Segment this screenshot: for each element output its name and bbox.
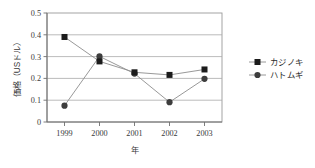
series-markers-kajinoki <box>62 34 208 78</box>
data-point <box>166 99 172 105</box>
data-point <box>167 72 173 78</box>
chart-figure: 0.5 0.4 0.3 0.2 0.1 0 1999 2000 2001 200… <box>0 0 315 168</box>
data-point <box>132 69 138 75</box>
y-tick-labels: 0.5 0.4 0.3 0.2 0.1 0 <box>31 9 41 127</box>
y-tick-label: 0.4 <box>31 31 41 40</box>
legend-label: カジノキ <box>270 57 303 67</box>
series-line-hatomugi <box>65 56 205 105</box>
line-chart: 0.5 0.4 0.3 0.2 0.1 0 1999 2000 2001 200… <box>0 0 315 168</box>
x-tick-marks <box>65 122 205 126</box>
data-point <box>97 58 103 64</box>
square-marker-icon <box>255 59 261 65</box>
y-tick-label: 0.3 <box>31 53 41 62</box>
data-point <box>61 103 67 109</box>
x-axis-title: 年 <box>131 145 139 155</box>
data-point <box>202 66 208 72</box>
legend-entry-kajinoki[interactable]: カジノキ <box>249 57 303 67</box>
plot-area-frame <box>47 13 222 122</box>
x-tick-label: 2001 <box>126 129 142 138</box>
y-tick-label: 0.1 <box>31 96 41 105</box>
y-axis-title: 価格（USドル） <box>12 38 22 97</box>
y-tick-marks <box>44 13 48 122</box>
x-tick-label: 2000 <box>91 129 107 138</box>
x-tick-labels: 1999 2000 2001 2002 2003 <box>56 129 212 138</box>
series-line-kajinoki <box>65 37 205 75</box>
x-tick-label: 2003 <box>196 129 212 138</box>
chart-legend: カジノキ ハトムギ <box>249 57 303 80</box>
legend-label: ハトムギ <box>270 70 303 80</box>
y-tick-label: 0.5 <box>31 9 41 18</box>
y-tick-label: 0 <box>37 118 41 127</box>
x-tick-label: 2002 <box>161 129 177 138</box>
gridlines <box>47 35 222 100</box>
data-point <box>201 76 207 82</box>
y-tick-label: 0.2 <box>31 74 41 83</box>
data-point <box>62 34 68 40</box>
x-tick-label: 1999 <box>56 129 72 138</box>
legend-entry-hatomugi[interactable]: ハトムギ <box>249 70 303 80</box>
circle-marker-icon <box>254 72 260 78</box>
